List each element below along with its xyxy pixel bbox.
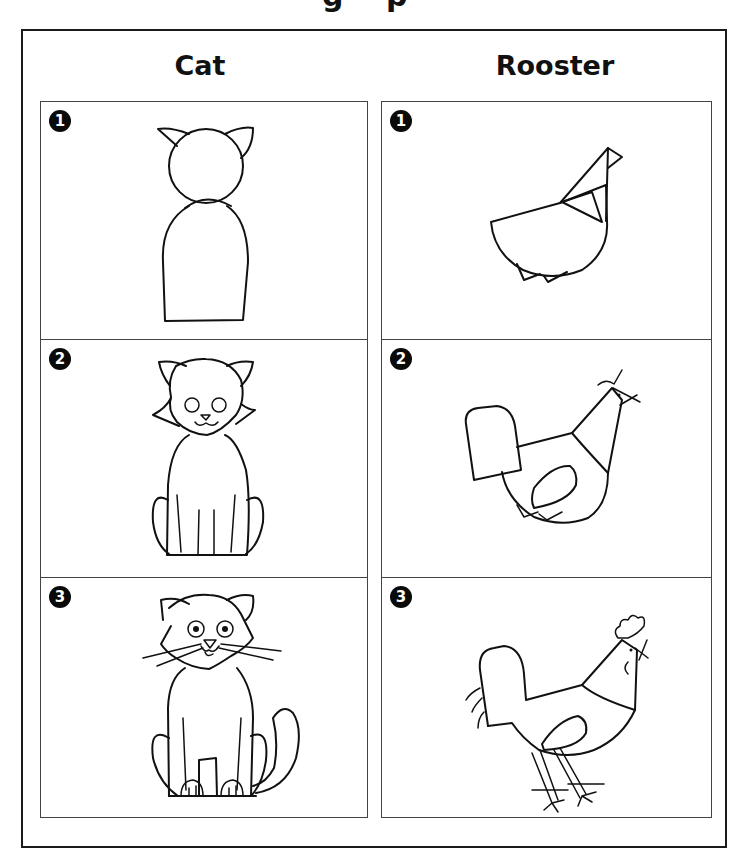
cat-step-1-panel: 1 — [40, 101, 368, 340]
rooster-step-2-panel: 2 — [381, 339, 712, 578]
rooster-step-2-drawing — [382, 340, 713, 579]
cat-step-2-drawing — [41, 340, 369, 579]
cat-step-3-drawing — [41, 578, 369, 819]
cat-step-2-panel: 2 — [40, 339, 368, 578]
column-header-cat: Cat — [150, 50, 250, 81]
title-descender-g: g — [322, 0, 344, 13]
title-descender-p: p — [386, 0, 408, 13]
cat-step-3-panel: 3 — [40, 577, 368, 818]
cat-step-1-drawing — [41, 102, 369, 341]
rooster-step-1-drawing — [382, 102, 713, 341]
rooster-step-3-drawing — [382, 578, 713, 819]
rooster-step-3-panel: 3 — [381, 577, 712, 818]
column-header-rooster: Rooster — [490, 50, 620, 81]
rooster-step-1-panel: 1 — [381, 101, 712, 340]
